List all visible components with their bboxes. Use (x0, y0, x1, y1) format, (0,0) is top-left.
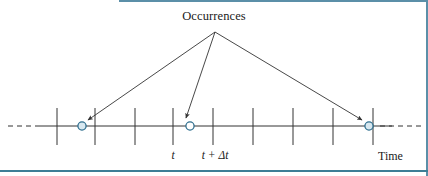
occurrence-marker-3 (365, 122, 373, 130)
bottom-accent-rule (0, 170, 428, 172)
annotation-arrow-3 (215, 32, 362, 120)
annotation-arrow-group (88, 32, 362, 120)
figure-container: Occurrences t t + Δt Time (0, 0, 428, 176)
annotation-arrow-2 (186, 32, 215, 118)
axis-tick-label-t: t (160, 150, 186, 162)
occurrence-marker-1 (78, 122, 86, 130)
occurrence-marker-2 (186, 122, 194, 130)
annotation-arrow-1 (88, 32, 215, 120)
figure-title: Occurrences (0, 10, 428, 23)
axis-tick-label-t-plus-delta-t: t + Δt (192, 150, 238, 162)
axis-title-time: Time (378, 150, 424, 162)
